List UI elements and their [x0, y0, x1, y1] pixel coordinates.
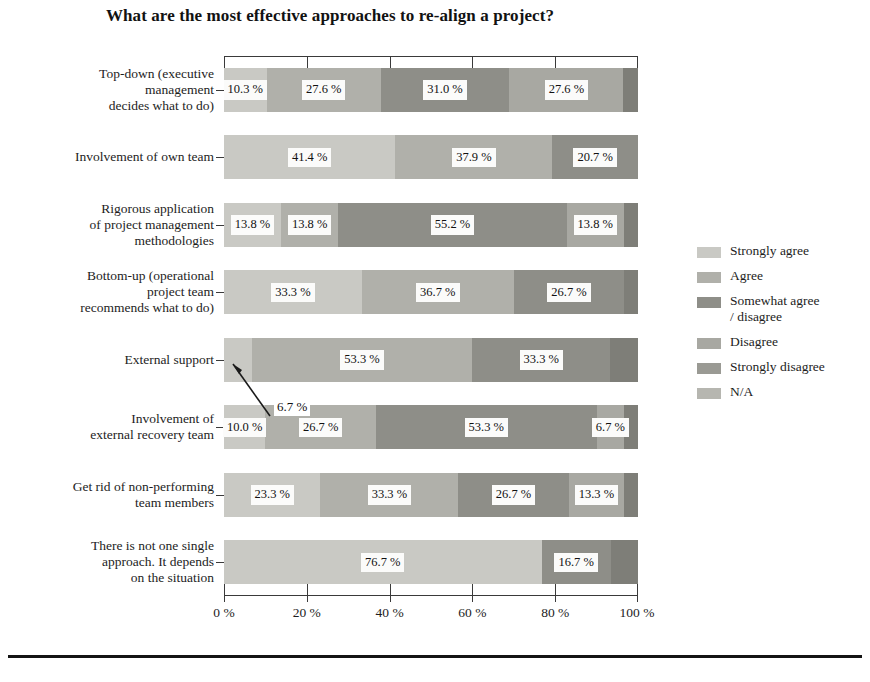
bar-value-label: 6.7 %: [592, 418, 629, 438]
bar-segment[interactable]: 16.7 %: [542, 540, 611, 584]
y-axis-tick: [216, 157, 224, 158]
bar-segment[interactable]: 10.3 %: [224, 68, 267, 112]
bar-segment[interactable]: [624, 473, 638, 517]
bar-segment[interactable]: [610, 338, 638, 382]
plot-area: 10.3 %27.6 %31.0 %27.6 %41.4 %37.9 %20.7…: [224, 56, 638, 596]
bar-segment[interactable]: 13.3 %: [569, 473, 624, 517]
bar-segment[interactable]: 26.7 %: [458, 473, 569, 517]
y-axis-category-label: Top-down (executivemanagementdecides wha…: [18, 66, 214, 114]
bar-value-label: 33.3 %: [271, 283, 314, 303]
bar-segment[interactable]: 13.8 %: [567, 203, 624, 247]
legend-label: Strongly disagree: [730, 359, 825, 375]
legend: Strongly agreeAgreeSomewhat agree/ disag…: [697, 243, 865, 409]
legend-swatch: [697, 247, 721, 258]
x-axis-tick-label: 40 %: [376, 605, 404, 621]
category-label-line: on the situation: [18, 570, 214, 586]
bar-segment[interactable]: [624, 270, 638, 314]
bar-segment[interactable]: 33.3 %: [472, 338, 610, 382]
bar-segment[interactable]: 33.3 %: [320, 473, 458, 517]
legend-item[interactable]: N/A: [697, 384, 865, 400]
axis-tick-outer: [224, 596, 225, 602]
y-axis-category-label: External support: [18, 352, 214, 368]
bar-row[interactable]: 53.3 %33.3 %: [224, 338, 638, 382]
x-axis-tick-label: 0 %: [213, 605, 234, 621]
bar-row[interactable]: 33.3 %36.7 %26.7 %: [224, 270, 638, 314]
y-axis-category-label: Involvement ofexternal recovery team: [18, 411, 214, 443]
bar-segment[interactable]: [623, 68, 637, 112]
bar-segment[interactable]: 76.7 %: [224, 540, 542, 584]
legend-label: Strongly agree: [730, 243, 809, 259]
category-label-line: team members: [18, 495, 214, 511]
legend-swatch: [697, 272, 721, 283]
legend-item[interactable]: Disagree: [697, 334, 865, 350]
bar-value-label: 13.8 %: [288, 215, 331, 235]
legend-label-line: N/A: [730, 384, 753, 400]
bar-value-label: 20.7 %: [573, 148, 616, 168]
x-axis-tick-label: 60 %: [458, 605, 486, 621]
axis-tick-outer: [307, 596, 308, 602]
legend-label: N/A: [730, 384, 753, 400]
bar-value-label: 36.7 %: [416, 283, 459, 303]
bar-segment[interactable]: 33.3 %: [224, 270, 362, 314]
legend-swatch: [697, 297, 721, 308]
bar-segment[interactable]: 27.6 %: [267, 68, 381, 112]
annotation-label-6-7-percent: 6.7 %: [274, 398, 310, 416]
bar-value-label: 37.9 %: [452, 148, 495, 168]
bar-segment[interactable]: 53.3 %: [252, 338, 473, 382]
bar-value-label: 13.8 %: [574, 215, 617, 235]
legend-label-line: Strongly disagree: [730, 359, 825, 375]
bar-segment[interactable]: 37.9 %: [395, 135, 552, 179]
category-label-line: Bottom-up (operational: [18, 268, 214, 284]
y-axis-tick: [216, 292, 224, 293]
bar-segment[interactable]: [224, 338, 252, 382]
bar-segment[interactable]: 10.0 %: [224, 405, 265, 449]
legend-item[interactable]: Somewhat agree/ disagree: [697, 293, 865, 325]
bar-row[interactable]: 41.4 %37.9 %20.7 %: [224, 135, 638, 179]
bar-row[interactable]: 10.3 %27.6 %31.0 %27.6 %: [224, 68, 638, 112]
axis-tick-outer: [390, 596, 391, 602]
legend-label-line: Strongly agree: [730, 243, 809, 259]
category-label-line: External support: [18, 352, 214, 368]
bar-segment[interactable]: 23.3 %: [224, 473, 320, 517]
legend-item[interactable]: Agree: [697, 268, 865, 284]
legend-item[interactable]: Strongly disagree: [697, 359, 865, 375]
y-axis-category-label: Rigorous applicationof project managemen…: [18, 201, 214, 249]
category-label-line: There is not one single: [18, 538, 214, 554]
category-label-line: Get rid of non-performing: [18, 479, 214, 495]
bar-value-label: 53.3 %: [465, 418, 508, 438]
bar-row[interactable]: 76.7 %16.7 %: [224, 540, 638, 584]
bar-segment[interactable]: 53.3 %: [376, 405, 597, 449]
bar-segment[interactable]: [611, 540, 638, 584]
bar-value-label: 13.8 %: [231, 215, 274, 235]
axis-tick-outer: [637, 596, 638, 602]
bar-segment[interactable]: 41.4 %: [224, 135, 395, 179]
bar-segment[interactable]: 13.8 %: [281, 203, 338, 247]
bar-row[interactable]: 23.3 %33.3 %26.7 %13.3 %: [224, 473, 638, 517]
bar-value-label: 10.3 %: [224, 80, 267, 100]
category-label-line: external recovery team: [18, 427, 214, 443]
legend-label-line: Disagree: [730, 334, 778, 350]
bar-segment[interactable]: 20.7 %: [552, 135, 638, 179]
bar-segment[interactable]: 31.0 %: [381, 68, 509, 112]
y-axis-tick: [216, 225, 224, 226]
bar-segment[interactable]: 13.8 %: [224, 203, 281, 247]
category-label-line: project team: [18, 284, 214, 300]
bar-segment[interactable]: 6.7 %: [597, 405, 625, 449]
bar-segment[interactable]: 55.2 %: [338, 203, 567, 247]
bar-segment[interactable]: [624, 203, 638, 247]
axis-bottom-line: [224, 595, 638, 596]
category-label-line: management: [18, 82, 214, 98]
y-axis-category-label: Get rid of non-performingteam members: [18, 479, 214, 511]
y-axis-tick: [216, 495, 224, 496]
bar-value-label: 13.3 %: [575, 485, 618, 505]
category-label-line: Involvement of: [18, 411, 214, 427]
category-label-line: methodologies: [18, 233, 214, 249]
legend-item[interactable]: Strongly agree: [697, 243, 865, 259]
bar-segment[interactable]: 27.6 %: [509, 68, 623, 112]
bar-segment[interactable]: 26.7 %: [514, 270, 625, 314]
bar-value-label: 33.3 %: [368, 485, 411, 505]
axis-tick-outer: [555, 596, 556, 602]
bar-segment[interactable]: 36.7 %: [362, 270, 514, 314]
bar-value-label: 23.3 %: [251, 485, 294, 505]
bar-row[interactable]: 13.8 %13.8 %55.2 %13.8 %: [224, 203, 638, 247]
